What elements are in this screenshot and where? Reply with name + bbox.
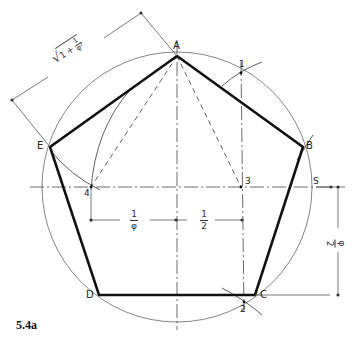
frac-den: 2 [201,222,207,231]
dim-diagonal-line-1 [104,13,141,38]
dim-label-phi-over-2: φ 2 [325,240,346,248]
figure-caption: 5.4a [16,318,37,333]
frac-num: φ [337,241,346,247]
point-label-3: 3 [245,177,251,186]
point-label-4: 4 [84,189,90,198]
frac-num: 1 [131,210,137,219]
point-label-s: S [313,177,319,186]
frac-den: 2 [325,241,334,247]
frac-num: 1 [201,210,207,219]
frac-den: φ [131,222,137,231]
vertex-label-c: C [260,290,267,300]
point-label-2: 2 [240,305,246,314]
dim-diagonal-ext-a [141,13,177,56]
pentagon [50,56,303,295]
dim-label-1-over-2: 1 2 [200,210,208,231]
vertex-label-b: B [306,141,313,151]
dim-diagonal-line-2 [12,77,48,100]
dim-label-1-over-phi: 1 φ [130,210,138,231]
dashed-line-a-3 [177,56,241,187]
dim-diagonal-ext-e [12,100,50,147]
point-label-1: 1 [239,60,245,69]
dashed-line-a-4 [91,56,177,187]
vertex-label-d: D [86,290,94,300]
vertex-label-a: A [173,41,180,51]
vertex-label-e: E [37,141,43,151]
